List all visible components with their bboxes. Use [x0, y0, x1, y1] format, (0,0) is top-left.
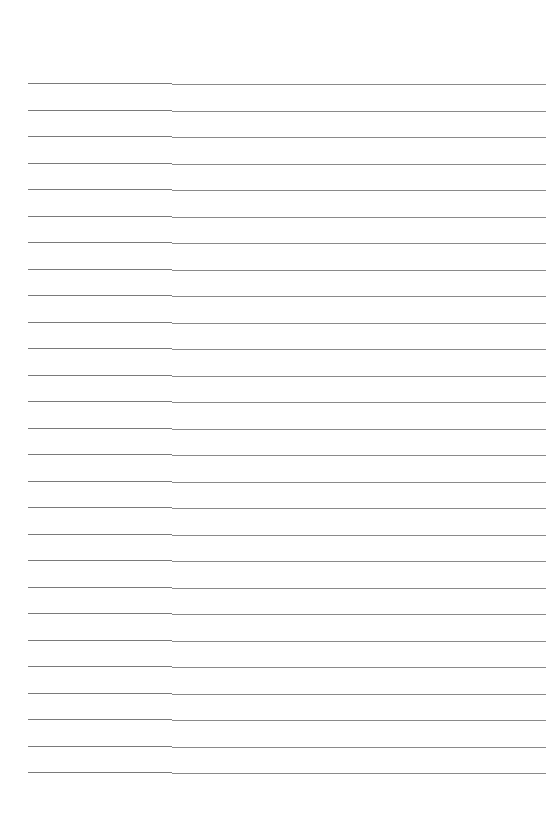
ruled-line-segment — [28, 481, 172, 482]
ruled-line — [28, 481, 546, 482]
ruled-line-segment — [172, 243, 546, 244]
ruled-line — [28, 560, 546, 561]
ruled-line — [28, 772, 546, 773]
ruled-line-segment — [172, 296, 546, 297]
ruled-line — [28, 613, 546, 614]
ruled-line-segment — [28, 587, 172, 588]
ruled-line-segment — [28, 136, 172, 137]
ruled-line-segment — [172, 694, 546, 695]
ruled-line-segment — [28, 216, 172, 217]
ruled-line — [28, 693, 546, 694]
ruled-line — [28, 348, 546, 349]
ruled-line-segment — [172, 270, 546, 271]
ruled-line-segment — [172, 614, 546, 615]
ruled-line-segment — [172, 561, 546, 562]
ruled-line-segment — [172, 190, 546, 191]
ruled-line-segment — [172, 429, 546, 430]
ruled-line-segment — [172, 508, 546, 509]
ruled-line-segment — [28, 189, 172, 190]
lined-page — [0, 0, 550, 836]
ruled-line-segment — [172, 535, 546, 536]
ruled-line — [28, 110, 546, 111]
ruled-line-segment — [28, 719, 172, 720]
ruled-line — [28, 507, 546, 508]
ruled-line — [28, 295, 546, 296]
ruled-line-segment — [172, 349, 546, 350]
ruled-line — [28, 269, 546, 270]
ruled-line-segment — [172, 720, 546, 721]
ruled-line-segment — [28, 269, 172, 270]
ruled-line-segment — [28, 507, 172, 508]
ruled-line — [28, 454, 546, 455]
ruled-line-segment — [28, 746, 172, 747]
ruled-line-segment — [28, 534, 172, 535]
ruled-line-segment — [172, 164, 546, 165]
ruled-line — [28, 83, 546, 84]
ruled-line-segment — [28, 110, 172, 111]
ruled-line — [28, 666, 546, 667]
ruled-line-segment — [28, 242, 172, 243]
ruled-line-segment — [28, 640, 172, 641]
ruled-line-segment — [28, 693, 172, 694]
ruled-line — [28, 375, 546, 376]
ruled-line — [28, 587, 546, 588]
ruled-line — [28, 242, 546, 243]
ruled-line-segment — [172, 323, 546, 324]
ruled-line-segment — [28, 163, 172, 164]
ruled-line-segment — [28, 666, 172, 667]
ruled-line — [28, 719, 546, 720]
ruled-line — [28, 322, 546, 323]
ruled-line — [28, 401, 546, 402]
ruled-line — [28, 534, 546, 535]
ruled-line — [28, 136, 546, 137]
ruled-line — [28, 640, 546, 641]
ruled-line-segment — [172, 402, 546, 403]
ruled-line-segment — [28, 348, 172, 349]
ruled-line-segment — [172, 376, 546, 377]
ruled-line-segment — [172, 482, 546, 483]
ruled-line-segment — [172, 455, 546, 456]
ruled-line — [28, 746, 546, 747]
ruled-line-segment — [28, 375, 172, 376]
ruled-line — [28, 189, 546, 190]
ruled-line-segment — [172, 111, 546, 112]
ruled-line-segment — [28, 772, 172, 773]
ruled-line-segment — [172, 84, 546, 85]
ruled-line-segment — [172, 217, 546, 218]
ruled-line-segment — [172, 137, 546, 138]
ruled-line-segment — [28, 322, 172, 323]
ruled-line-segment — [28, 295, 172, 296]
ruled-line-segment — [28, 454, 172, 455]
ruled-line-segment — [28, 560, 172, 561]
ruled-line — [28, 163, 546, 164]
ruled-line-segment — [28, 428, 172, 429]
ruled-line-segment — [172, 641, 546, 642]
ruled-line-segment — [172, 747, 546, 748]
ruled-line-segment — [28, 401, 172, 402]
ruled-line-segment — [172, 588, 546, 589]
ruled-line-segment — [172, 667, 546, 668]
ruled-line-segment — [28, 83, 172, 84]
ruled-line-segment — [172, 773, 546, 774]
ruled-line — [28, 428, 546, 429]
ruled-line-segment — [28, 613, 172, 614]
ruled-line — [28, 216, 546, 217]
